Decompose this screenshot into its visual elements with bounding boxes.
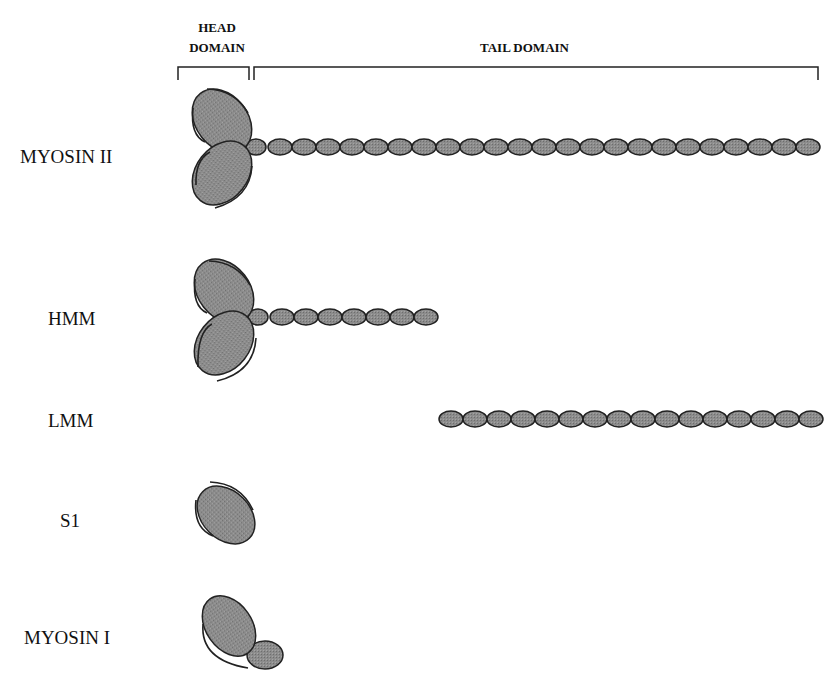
tail-bead xyxy=(439,411,463,427)
tail-bead xyxy=(796,139,820,155)
tail-bead xyxy=(484,139,508,155)
myosin-i-molecule xyxy=(191,586,283,669)
tail-bead xyxy=(268,139,292,155)
tail-bead xyxy=(628,139,652,155)
tail-bead xyxy=(604,139,628,155)
tail-bead xyxy=(366,309,390,325)
tail-bead xyxy=(703,411,727,427)
tail-bead xyxy=(580,139,604,155)
tail-bead xyxy=(316,139,340,155)
tail-bead xyxy=(508,139,532,155)
myosin-diagram xyxy=(0,0,837,697)
tail-bead xyxy=(748,139,772,155)
myosin-ii-tail xyxy=(246,139,820,155)
tail-bead xyxy=(679,411,703,427)
tail-bead xyxy=(342,309,366,325)
tail-bead xyxy=(676,139,700,155)
tail-bead xyxy=(607,411,631,427)
myosin-ii-molecule xyxy=(180,77,820,216)
head-domain-bracket xyxy=(178,67,249,80)
tail-bead xyxy=(460,139,484,155)
tail-bead xyxy=(700,139,724,155)
tail-bead xyxy=(463,411,487,427)
tail-bead xyxy=(340,139,364,155)
tail-bead xyxy=(436,139,460,155)
tail-bead xyxy=(414,309,438,325)
tail-bead xyxy=(724,139,748,155)
lmm-molecule xyxy=(439,411,823,427)
s1-molecule xyxy=(186,475,267,556)
tail-bead xyxy=(556,139,580,155)
tail-domain-bracket xyxy=(254,67,818,80)
tail-bead xyxy=(292,139,316,155)
tail-bead xyxy=(364,139,388,155)
tail-bead xyxy=(487,411,511,427)
tail-bead xyxy=(751,411,775,427)
tail-bead xyxy=(631,411,655,427)
tail-bead xyxy=(799,411,823,427)
tail-bead xyxy=(535,411,559,427)
tail-bead xyxy=(583,411,607,427)
tail-bead xyxy=(652,139,676,155)
hmm-tail xyxy=(248,309,438,325)
tail-bead xyxy=(559,411,583,427)
tail-bead xyxy=(294,309,318,325)
tail-bead xyxy=(388,139,412,155)
tail-bead xyxy=(772,139,796,155)
tail-bead xyxy=(412,139,436,155)
tail-bead xyxy=(270,309,294,325)
tail-bead xyxy=(532,139,556,155)
tail-bead xyxy=(655,411,679,427)
tail-bead xyxy=(727,411,751,427)
tail-bead xyxy=(775,411,799,427)
tail-bead xyxy=(318,309,342,325)
tail-bead xyxy=(390,309,414,325)
tail-bead xyxy=(511,411,535,427)
hmm-molecule xyxy=(182,247,438,386)
